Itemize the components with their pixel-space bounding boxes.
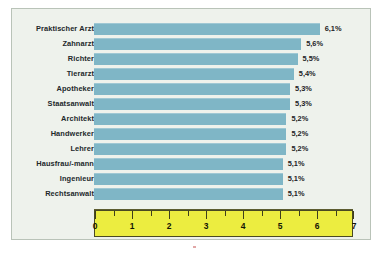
bar-track: 5,2% [94, 113, 372, 125]
bar-row: Handwerker5,2% [12, 128, 372, 143]
x-axis-tick-major [280, 211, 281, 219]
bar-track: 6,1% [94, 23, 372, 35]
bar-row: Architekt5,2% [12, 113, 372, 128]
bar-category-label: Staatsanwalt [0, 98, 94, 110]
x-axis-tick-major [317, 211, 318, 219]
bar-track: 5,6% [94, 38, 372, 50]
bar-track: 5,1% [94, 158, 372, 170]
bar-category-label: Zahnarzt [0, 38, 94, 50]
bar-value-label: 5,2% [291, 128, 308, 140]
bar [94, 23, 320, 35]
x-axis-tick-minor [299, 211, 300, 216]
x-axis: 01234567 [94, 210, 353, 237]
bar-track: 5,1% [94, 188, 372, 200]
x-axis-tick-minor [114, 211, 115, 216]
bar-chart: Praktischer Arzt6,1%Zahnarzt5,6%Richter5… [0, 0, 384, 260]
bar-value-label: 5,3% [295, 98, 312, 110]
x-axis-tick-label: 1 [130, 220, 135, 233]
bar-track: 5,2% [94, 128, 372, 140]
bar-row: Staatsanwalt5,3% [12, 98, 372, 113]
bar-value-label: 5,6% [306, 38, 323, 50]
bar-category-label: Rechtsanwalt [0, 188, 94, 200]
bar [94, 158, 283, 170]
bar-category-label: Hausfrau/-mann [0, 158, 94, 170]
bar-track: 5,3% [94, 98, 372, 110]
bar-row: Zahnarzt5,6% [12, 38, 372, 53]
x-axis-tick-major [169, 211, 170, 219]
bar-category-label: Richter [0, 53, 94, 65]
x-axis-tick-label: 7 [352, 220, 357, 233]
bar [94, 53, 298, 65]
x-axis-tick-major [353, 211, 354, 219]
bar-track: 5,2% [94, 143, 372, 155]
x-axis-tick-minor [336, 211, 337, 216]
x-axis-tick-minor [188, 211, 189, 216]
bar-track: 5,4% [94, 68, 372, 80]
bar-category-label: Architekt [0, 113, 94, 125]
bar-track: 5,5% [94, 53, 372, 65]
bar [94, 188, 283, 200]
bar [94, 143, 286, 155]
bar-value-label: 5,1% [288, 188, 305, 200]
bar-row: Lehrer5,2% [12, 143, 372, 158]
bar-row: Ingenieur5,1% [12, 173, 372, 188]
bar [94, 68, 294, 80]
bar-rows: Praktischer Arzt6,1%Zahnarzt5,6%Richter5… [12, 23, 372, 203]
bar-row: Hausfrau/-mann5,1% [12, 158, 372, 173]
bar [94, 128, 286, 140]
bar-row: Apotheker5,3% [12, 83, 372, 98]
x-axis-tick-major [206, 211, 207, 219]
bar [94, 83, 290, 95]
bar-track: 5,1% [94, 173, 372, 185]
x-axis-tick-major [132, 211, 133, 219]
bar-value-label: 5,1% [288, 158, 305, 170]
bar [94, 38, 301, 50]
bar-value-label: 5,1% [288, 173, 305, 185]
x-axis-tick-label: 6 [315, 220, 320, 233]
bar-category-label: Handwerker [0, 128, 94, 140]
bar-row: Richter5,5% [12, 53, 372, 68]
x-axis-tick-label: 2 [167, 220, 172, 233]
plot-area: Praktischer Arzt6,1%Zahnarzt5,6%Richter5… [12, 9, 372, 241]
x-axis-tick-label: 4 [241, 220, 246, 233]
x-axis-tick-major [95, 211, 96, 219]
bar-value-label: 5,4% [299, 68, 316, 80]
bar-track: 5,3% [94, 83, 372, 95]
x-axis-tick-label: 5 [278, 220, 283, 233]
x-axis-tick-label: 3 [204, 220, 209, 233]
bar-value-label: 5,2% [291, 113, 308, 125]
x-axis-tick-major [243, 211, 244, 219]
x-axis-tick-label: 0 [93, 220, 98, 233]
bar-value-label: 5,2% [291, 143, 308, 155]
bar-value-label: 5,5% [303, 53, 320, 65]
bar-row: Tierarzt5,4% [12, 68, 372, 83]
bar-category-label: Tierarzt [0, 68, 94, 80]
x-axis-tick-minor [151, 211, 152, 216]
bar-category-label: Lehrer [0, 143, 94, 155]
bar-row: Rechtsanwalt5,1% [12, 188, 372, 203]
bar-category-label: Ingenieur [0, 173, 94, 185]
x-axis-tick-minor [225, 211, 226, 216]
scan-artifact [193, 246, 196, 248]
bar-value-label: 6,1% [325, 23, 342, 35]
bar [94, 113, 286, 125]
chart-panel: Praktischer Arzt6,1%Zahnarzt5,6%Richter5… [11, 8, 371, 240]
bar-category-label: Apotheker [0, 83, 94, 95]
bar [94, 173, 283, 185]
bar-category-label: Praktischer Arzt [0, 23, 94, 35]
bar-row: Praktischer Arzt6,1% [12, 23, 372, 38]
x-axis-tick-minor [262, 211, 263, 216]
bar-value-label: 5,3% [295, 83, 312, 95]
bar [94, 98, 290, 110]
